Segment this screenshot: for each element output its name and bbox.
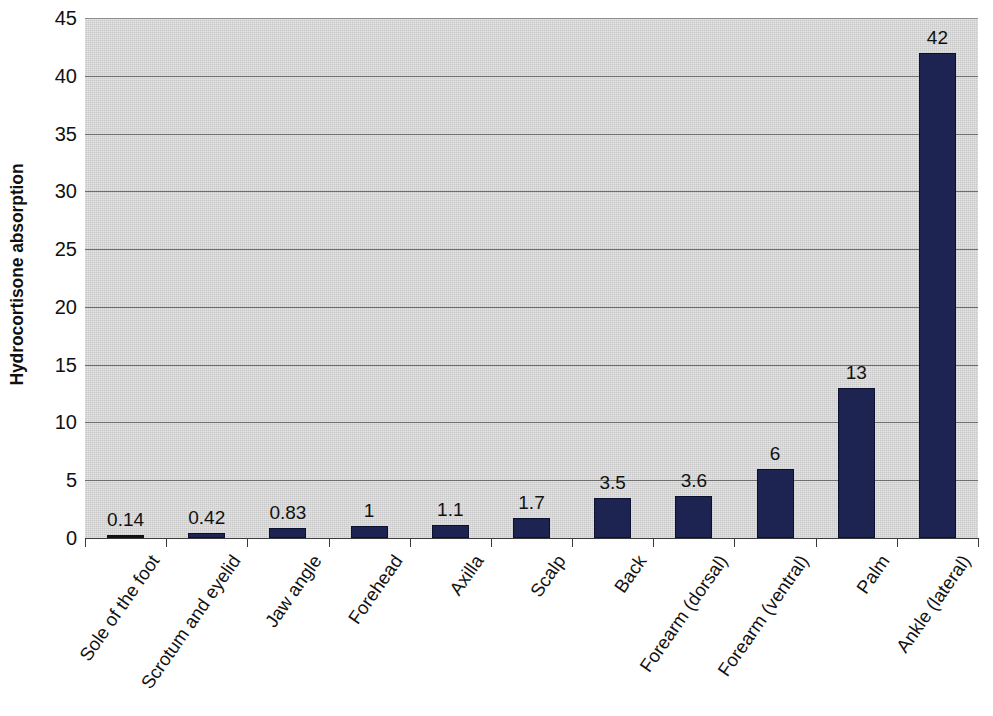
bar[interactable] — [513, 518, 550, 538]
x-axis-tick-mark — [653, 538, 654, 547]
bar-chart: Hydrocortisone absorption 05101520253035… — [0, 0, 993, 716]
bar-value-label: 13 — [846, 362, 867, 384]
x-axis-category-label: Jaw angle — [262, 552, 325, 631]
bar-value-label: 0.83 — [269, 502, 306, 524]
y-axis-tick-label: 40 — [55, 64, 77, 87]
x-axis-category-label: Palm — [854, 552, 893, 597]
y-axis-tick-label: 0 — [66, 527, 77, 550]
bar-value-label: 3.6 — [681, 470, 707, 492]
x-axis-category-label: Axilla — [447, 552, 488, 599]
x-axis-category-label: Sole of the foot — [76, 552, 163, 665]
x-axis-tick-mark — [85, 538, 86, 547]
gridline — [85, 18, 978, 19]
x-axis-category-label: Scalp — [527, 552, 569, 601]
bar[interactable] — [594, 498, 631, 538]
bar-value-label: 0.14 — [107, 509, 144, 531]
bar-value-label: 3.5 — [599, 472, 625, 494]
x-axis-tick-mark — [329, 538, 330, 547]
y-axis-title-text: Hydrocortisone absorption — [7, 163, 28, 385]
bar[interactable] — [838, 388, 875, 538]
y-axis-tick-label: 10 — [55, 411, 77, 434]
y-axis-tick-label: 20 — [55, 295, 77, 318]
gridline — [85, 249, 978, 250]
bar[interactable] — [432, 525, 469, 538]
x-axis-tick-mark — [734, 538, 735, 547]
y-axis-title: Hydrocortisone absorption — [0, 0, 34, 548]
y-axis-tick-label: 25 — [55, 238, 77, 261]
y-axis-tick-label: 5 — [66, 469, 77, 492]
bar[interactable] — [351, 526, 388, 538]
x-axis-category-label: Forearm (dorsal) — [637, 552, 731, 675]
x-axis-category-label: Ankle (lateral) — [894, 552, 975, 656]
bar[interactable] — [919, 53, 956, 538]
bar-value-label: 1.7 — [518, 492, 544, 514]
bar-value-label: 0.42 — [188, 507, 225, 529]
bar[interactable] — [757, 469, 794, 538]
x-axis-category-label: Forehead — [346, 552, 407, 627]
x-axis-tick-mark — [978, 538, 979, 547]
x-axis-tick-mark — [816, 538, 817, 547]
bar[interactable] — [675, 496, 712, 538]
bar-value-label: 6 — [770, 443, 781, 465]
x-axis-tick-mark — [491, 538, 492, 547]
bar-value-label: 42 — [927, 27, 948, 49]
gridline — [85, 134, 978, 135]
x-axis-tick-mark — [410, 538, 411, 547]
gridline — [85, 76, 978, 77]
gridline — [85, 365, 978, 366]
bar-value-label: 1 — [364, 500, 375, 522]
x-axis-category-label: Forearm (ventral) — [715, 552, 812, 680]
y-axis-tick-labels: 051015202530354045 — [38, 0, 77, 560]
y-axis-tick-label: 15 — [55, 353, 77, 376]
x-axis-line — [85, 538, 979, 539]
x-axis-tick-mark — [572, 538, 573, 547]
y-axis-tick-label: 30 — [55, 180, 77, 203]
bar-value-label: 1.1 — [437, 499, 463, 521]
bar[interactable] — [269, 528, 306, 538]
x-axis-tick-mark — [897, 538, 898, 547]
gridline — [85, 191, 978, 192]
y-axis-tick-label: 45 — [55, 7, 77, 30]
x-axis-tick-mark — [166, 538, 167, 547]
x-axis-tick-mark — [247, 538, 248, 547]
gridline — [85, 307, 978, 308]
x-axis-category-label: Back — [611, 552, 650, 596]
y-axis-tick-label: 35 — [55, 122, 77, 145]
plot-area: 0.140.420.8311.11.73.53.661342 — [85, 18, 978, 538]
